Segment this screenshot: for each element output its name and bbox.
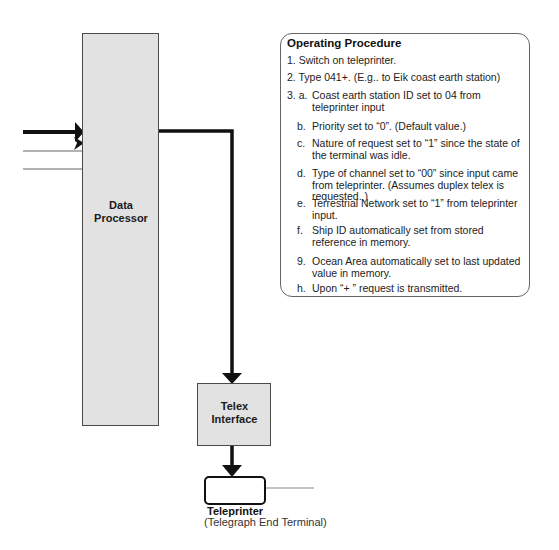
procedure-step: h. Upon “+ ” request is transmitted. [297, 283, 527, 295]
data-processor-label: Data Processor [82, 199, 160, 224]
step-text: Ship ID automatically set from stored re… [312, 225, 529, 248]
procedure-step: b. Priority set to “0”. (Default value.) [297, 121, 527, 133]
step-text: Upon “+ ” request is transmitted. [312, 283, 527, 295]
data-processor-block [82, 33, 159, 426]
step-number: 2. [287, 71, 296, 83]
step-text: Type 041+. (E.g.. to Eik coast earth sta… [299, 71, 501, 83]
telex-interface-label: Telex Interface [197, 400, 272, 425]
teleprinter-subtitle: (Telegraph End Terminal) [204, 516, 327, 528]
step-number: 1. [287, 54, 296, 66]
step-number: h. [297, 283, 306, 295]
procedure-step: 1. Switch on teleprinter. [287, 55, 522, 67]
step-number: 3. a. [287, 90, 307, 102]
step-number: d. [297, 168, 306, 180]
procedure-title: Operating Procedure [287, 37, 401, 49]
procedure-step: 2. Type 041+. (E.g.. to Eik coast earth … [287, 72, 527, 84]
step-text: Nature of request set to “1” since the s… [312, 138, 527, 161]
step-text: Coast earth station ID set to 04 from te… [312, 90, 527, 113]
step-number: f. [297, 225, 303, 237]
teleprinter-block [204, 476, 266, 505]
step-number: 9. [297, 256, 306, 268]
procedure-step: f. Ship ID automatically set from stored… [297, 225, 529, 248]
telex-label-line1: Telex [197, 400, 272, 413]
procedure-step: c. Nature of request set to “1” since th… [297, 138, 527, 161]
step-number: c. [297, 138, 305, 150]
step-text: Switch on teleprinter. [299, 54, 396, 66]
data-processor-label-line1: Data [82, 199, 160, 212]
procedure-step: e. Terrestrial Network set to “1” from t… [297, 198, 527, 221]
step-text: Ocean Area automatically set to last upd… [312, 256, 527, 279]
data-processor-label-line2: Processor [82, 212, 160, 225]
procedure-step: 3. a. Coast earth station ID set to 04 f… [287, 90, 527, 113]
step-number: b. [297, 121, 306, 133]
step-text: Terrestrial Network set to “1” from tele… [312, 198, 527, 221]
dp-to-telex-wire [159, 131, 232, 374]
telex-label-line2: Interface [197, 413, 272, 426]
step-text: Priority set to “0”. (Default value.) [312, 121, 527, 133]
procedure-step: 9. Ocean Area automatically set to last … [297, 256, 527, 279]
step-number: e. [297, 198, 306, 210]
